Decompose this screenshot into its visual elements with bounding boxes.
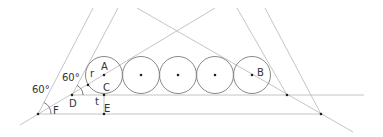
label-f: F	[53, 106, 59, 116]
tangent-point	[87, 84, 90, 87]
tangency-3	[196, 74, 198, 76]
circle-2-center	[140, 74, 143, 77]
point-a	[103, 74, 106, 77]
steep-line-right-1	[237, 8, 287, 95]
point-c	[103, 94, 106, 97]
tangency-2	[159, 74, 161, 76]
tangency-1	[122, 74, 124, 76]
geometry-diagram: A B C D E F r t 60° 60°	[0, 0, 383, 137]
circle-3-center	[177, 74, 180, 77]
right-point-lower	[320, 113, 323, 116]
label-t: t	[95, 97, 99, 107]
point-d	[71, 94, 74, 97]
label-angle-d: 60°	[62, 73, 80, 83]
right-point-upper	[286, 94, 289, 97]
label-c: C	[103, 83, 110, 93]
point-b	[251, 74, 254, 77]
steep-line-right-2	[265, 8, 321, 114]
label-a: A	[101, 62, 108, 72]
tangency-4	[233, 74, 235, 76]
diagram-canvas	[0, 0, 383, 137]
circle-4-center	[214, 74, 217, 77]
label-d: D	[69, 99, 77, 109]
label-b: B	[257, 68, 264, 78]
label-e: E	[104, 104, 110, 114]
point-f	[37, 113, 40, 116]
label-r: r	[90, 69, 94, 79]
label-angle-f: 60°	[32, 85, 50, 95]
